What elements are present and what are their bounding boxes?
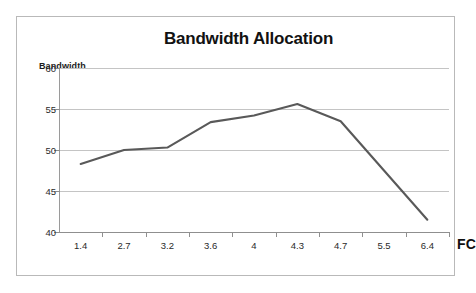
scan-edge: [0, 283, 468, 293]
x-axis-title: FC: [457, 236, 476, 252]
chart-title: Bandwidth Allocation: [17, 29, 454, 49]
x-tick-label: 6.4: [421, 240, 434, 251]
x-tick-label: 5.5: [377, 240, 390, 251]
x-tick-label: 4.7: [334, 240, 347, 251]
plot-area: 4045505560 1.42.73.23.644.34.75.56.4 FC: [43, 68, 459, 232]
x-tick-label: 3.6: [204, 240, 217, 251]
x-tick-label: 1.4: [74, 240, 87, 251]
x-tick-label: 2.7: [117, 240, 130, 251]
x-tick-label: 4.3: [291, 240, 304, 251]
series-line-bandwidth: [43, 68, 459, 233]
x-tick-label: 4: [251, 240, 256, 251]
chart-frame: Bandwidth Allocation Bandwidth 404550556…: [16, 16, 455, 276]
x-tick-label: 3.2: [161, 240, 174, 251]
